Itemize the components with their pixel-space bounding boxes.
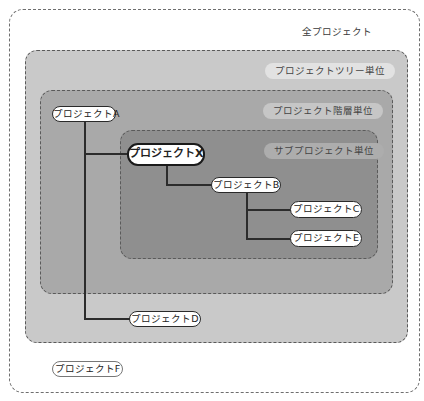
scope-label-hierarchy: プロジェクト階層単位: [263, 103, 383, 119]
node-project-d: プロジェクトD: [129, 311, 201, 327]
node-project-a: プロジェクトA: [52, 106, 116, 122]
node-project-b: プロジェクトB: [211, 177, 281, 193]
edge-x-to-b: [166, 184, 212, 186]
node-project-e: プロジェクトE: [290, 230, 362, 247]
edge-a-to-x: [84, 153, 128, 155]
edge-a-to-d: [84, 318, 130, 320]
node-project-c: プロジェクトC: [290, 201, 362, 218]
scope-label-subproject: サブプロジェクト単位: [264, 143, 384, 159]
scope-label-all: 全プロジェクト: [302, 24, 372, 38]
edge-b-trunk: [246, 192, 248, 239]
node-project-f: プロジェクトF: [52, 361, 123, 377]
node-project-x: プロジェクトX: [127, 143, 205, 166]
edge-b-to-e: [246, 238, 291, 240]
edge-x-trunk: [166, 165, 168, 185]
edge-a-trunk: [84, 121, 86, 319]
edge-b-to-c: [246, 209, 291, 211]
scope-label-tree: プロジェクトツリー単位: [265, 63, 395, 79]
